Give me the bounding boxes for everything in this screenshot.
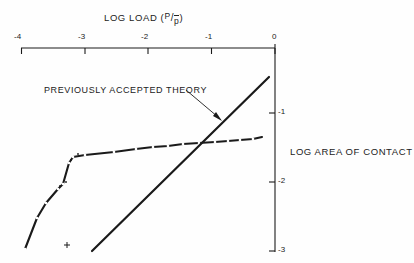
series-previously-accepted-theory — [92, 77, 269, 251]
y-axis-group — [269, 44, 275, 252]
y-tick-label--1: -1 — [278, 107, 285, 116]
x-tick-label--3: -3 — [78, 32, 85, 41]
annotation-previously-accepted-theory: PREVIOUSLY ACCEPTED THEORY — [44, 85, 207, 95]
experimental-scatter-overshoot — [59, 153, 79, 187]
x-tick-label--4: -4 — [14, 32, 21, 41]
x-tick-label--1: -1 — [205, 32, 212, 41]
y-tick-label--3: -3 — [278, 245, 285, 254]
series-experimental-data — [24, 137, 262, 250]
theory-line — [92, 77, 269, 251]
experimental-data-line — [25, 137, 262, 249]
chart-title: LOG LOAD (P/p) — [104, 12, 183, 23]
y-tick-label--2: -2 — [278, 176, 285, 185]
experimental-data-markers — [24, 138, 255, 251]
chart-title-prefix: LOG LOAD ( — [104, 12, 164, 23]
fraction-numerator: P — [164, 11, 170, 21]
fraction-denominator: p — [174, 17, 179, 26]
x-tick-label-0: 0 — [272, 32, 276, 41]
x-axis-group — [21, 48, 275, 54]
stray-plus-marker — [64, 242, 70, 248]
y-axis-label: LOG AREA OF CONTACT — [290, 146, 413, 157]
load-ratio-fraction: P/p — [164, 13, 179, 23]
x-tick-label--2: -2 — [141, 32, 148, 41]
figure-container: LOG LOAD (P/p) -4 -3 -2 -1 0 -1 -2 -3 LO… — [0, 0, 414, 263]
chart-title-suffix: ) — [179, 12, 183, 23]
